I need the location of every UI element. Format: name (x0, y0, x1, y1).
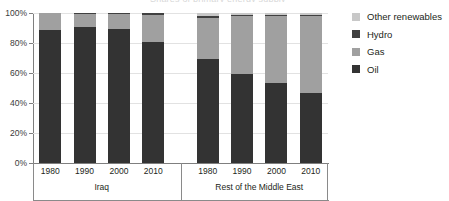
x-axis-tick-label: 1990 (68, 166, 102, 176)
plot-area: 0%20%40%60%80%100% (33, 13, 328, 163)
y-axis-tick (29, 13, 33, 14)
legend-item[interactable]: Other renewables (352, 12, 442, 22)
bar-stack[interactable] (197, 13, 219, 163)
x-axis-tick-label: 1990 (225, 166, 259, 176)
group-separator (327, 163, 328, 201)
legend-item-label: Oil (367, 65, 379, 75)
bar-stack[interactable] (39, 13, 61, 163)
bar-segment-gas[interactable] (265, 16, 287, 83)
x-axis-group-label: Rest of the Middle East (215, 182, 303, 192)
chart-title-cutoff: Shares of primary energy supply (150, 0, 340, 2)
y-axis-tick-label: 100% (5, 8, 27, 18)
bar-segment-oil[interactable] (74, 27, 96, 163)
y-axis-tick (29, 43, 33, 44)
legend-swatch-icon (352, 30, 360, 38)
bar-stack[interactable] (74, 13, 96, 163)
y-axis-tick (29, 133, 33, 134)
bar-segment-gas[interactable] (74, 14, 96, 28)
bar-segment-oil[interactable] (265, 83, 287, 163)
y-axis-tick-label: 20% (10, 128, 27, 138)
y-axis-tick-label: 80% (10, 38, 27, 48)
bar-segment-oil[interactable] (108, 29, 130, 163)
y-axis-tick-label: 60% (10, 68, 27, 78)
x-axis-tick-label: 2000 (259, 166, 293, 176)
group-separator (33, 163, 34, 201)
x-axis-tick-label: 1980 (191, 166, 225, 176)
y-axis-tick (29, 73, 33, 74)
legend-item-label: Other renewables (367, 12, 442, 22)
x-axis-tick-label: 2010 (294, 166, 328, 176)
bar-segment-oil[interactable] (300, 93, 322, 163)
y-axis-tick-label: 40% (10, 98, 27, 108)
bar-segment-gas[interactable] (231, 16, 253, 74)
bar-segment-oil[interactable] (231, 74, 253, 163)
legend-item[interactable]: Gas (352, 47, 442, 57)
bar-segment-oil[interactable] (39, 30, 61, 163)
x-axis-tick-label: 2010 (136, 166, 170, 176)
chart-legend: Other renewablesHydroGasOil (352, 12, 442, 74)
bar-segment-gas[interactable] (108, 14, 130, 29)
x-axis-tick-label: 2000 (102, 166, 136, 176)
legend-item-label: Hydro (367, 30, 392, 40)
x-axis-tick-label: 1980 (33, 166, 67, 176)
y-axis-tick-label: 0% (15, 158, 27, 168)
bar-stack[interactable] (300, 13, 322, 163)
bar-segment-oil[interactable] (142, 42, 164, 164)
legend-swatch-icon (352, 65, 360, 73)
bar-stack[interactable] (265, 13, 287, 163)
bar-segment-gas[interactable] (39, 13, 61, 30)
category-axis: 1980199020002010Iraq1980199020002010Rest… (33, 163, 329, 201)
legend-item-label: Gas (367, 47, 384, 57)
legend-swatch-icon (352, 48, 360, 56)
bar-segment-oil[interactable] (197, 59, 219, 163)
bar-segment-gas[interactable] (142, 15, 164, 42)
y-axis-tick (29, 103, 33, 104)
legend-swatch-icon (352, 13, 360, 21)
legend-item[interactable]: Hydro (352, 30, 442, 40)
stacked-bar-chart: Shares of primary energy supply 0%20%40%… (0, 0, 449, 201)
x-axis-group-label: Iraq (94, 182, 109, 192)
bar-stack[interactable] (231, 13, 253, 163)
bar-segment-gas[interactable] (197, 18, 219, 59)
bar-segment-gas[interactable] (300, 16, 322, 93)
group-separator (181, 163, 182, 201)
bar-stack[interactable] (142, 13, 164, 163)
bar-stack[interactable] (108, 13, 130, 163)
legend-item[interactable]: Oil (352, 65, 442, 75)
